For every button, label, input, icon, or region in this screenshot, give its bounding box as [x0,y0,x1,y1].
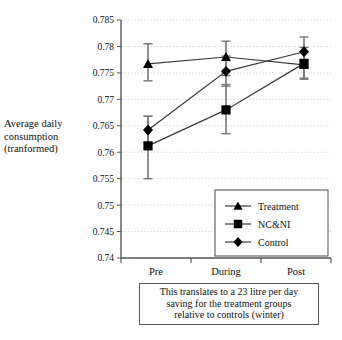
caption-line-1: This translates to a 23 litre per day [143,286,315,298]
chart-figure: Average daily consumption (tranformed) 0… [0,0,342,340]
y-gridline-group: 0.775 [93,68,331,78]
legend-item-ncni[interactable]: NC&NI [225,219,290,230]
square-marker [143,141,152,150]
diamond-marker [143,125,153,136]
x-tick-label: During [211,266,241,277]
y-tick-label: 0.74 [97,253,114,263]
y-tick-label: 0.775 [93,68,115,78]
x-tick-label: Post [287,266,305,277]
square-marker [299,59,308,68]
y-tick-label: 0.755 [93,174,115,184]
legend: TreatmentNC&NIControl [215,190,328,256]
y-tick-label: 0.75 [97,201,114,211]
legend-label: Control [258,237,289,248]
square-marker [221,105,230,114]
caption-line-3: relative to controls (winter) [143,309,315,321]
y-gridline-group: 0.78 [97,42,331,52]
y-gridline-group: 0.76 [97,148,331,158]
y-tick-label: 0.765 [93,121,115,131]
y-gridline-group: 0.74 [97,253,121,263]
caption-line-2: saving for the treatment groups [143,298,315,310]
legend-label: Treatment [258,201,299,212]
y-tick-label: 0.785 [93,15,115,25]
y-gridline-group: 0.77 [97,95,331,105]
y-tick-label: 0.78 [97,42,114,52]
y-gridline-group: 0.785 [93,15,331,25]
square-marker [234,220,242,228]
legend-label: NC&NI [258,219,290,230]
y-tick-label: 0.745 [93,227,115,237]
y-tick-label: 0.77 [97,95,114,105]
caption-box: This translates to a 23 litre per day sa… [139,283,319,325]
x-tick-label: Pre [149,266,163,277]
y-tick-label: 0.76 [97,148,114,158]
y-gridline-group: 0.765 [93,121,331,131]
y-gridline-group: 0.755 [93,174,331,184]
